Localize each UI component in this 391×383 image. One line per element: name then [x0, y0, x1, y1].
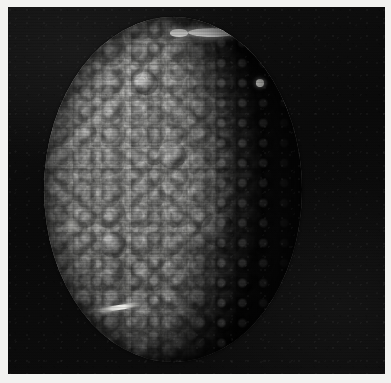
photo-plate — [8, 7, 385, 374]
image-caption — [0, 0, 1, 1]
photo-frame — [0, 0, 391, 383]
limb-vignette — [44, 17, 302, 362]
moon-disk — [44, 17, 302, 362]
